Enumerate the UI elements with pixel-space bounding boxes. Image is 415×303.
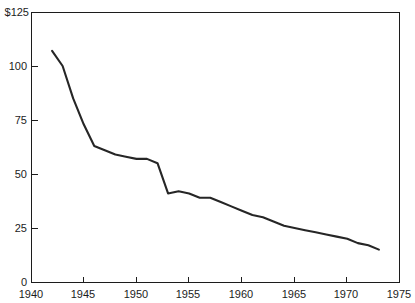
x-tick-label-1975: 1975 bbox=[387, 288, 411, 300]
y-tick-label-100: 100 bbox=[9, 60, 27, 72]
y-axis-ticks bbox=[32, 67, 38, 283]
x-tick-label-1960: 1960 bbox=[229, 288, 253, 300]
chart-figure: 0 25 50 75 100 $125 1940 1945 1950 1955 … bbox=[0, 0, 415, 303]
plot-frame bbox=[32, 13, 400, 283]
y-tick-label-50: 50 bbox=[15, 168, 27, 180]
line-chart: 0 25 50 75 100 $125 1940 1945 1950 1955 … bbox=[0, 0, 415, 303]
x-tick-label-1965: 1965 bbox=[282, 288, 306, 300]
y-tick-label-125: $125 bbox=[5, 6, 29, 18]
y-tick-label-75: 75 bbox=[15, 114, 27, 126]
y-tick-label-0: 0 bbox=[21, 276, 27, 288]
y-axis-labels: 0 25 50 75 100 $125 bbox=[5, 6, 29, 288]
x-tick-label-1945: 1945 bbox=[71, 288, 95, 300]
x-axis-ticks bbox=[84, 277, 347, 283]
x-tick-label-1970: 1970 bbox=[334, 288, 358, 300]
x-tick-label-1955: 1955 bbox=[176, 288, 200, 300]
x-tick-label-1940: 1940 bbox=[19, 288, 43, 300]
data-series-line bbox=[52, 51, 379, 250]
x-axis-labels: 1940 1945 1950 1955 1960 1965 1970 1975 bbox=[19, 288, 411, 300]
y-tick-label-25: 25 bbox=[15, 222, 27, 234]
x-tick-label-1950: 1950 bbox=[124, 288, 148, 300]
